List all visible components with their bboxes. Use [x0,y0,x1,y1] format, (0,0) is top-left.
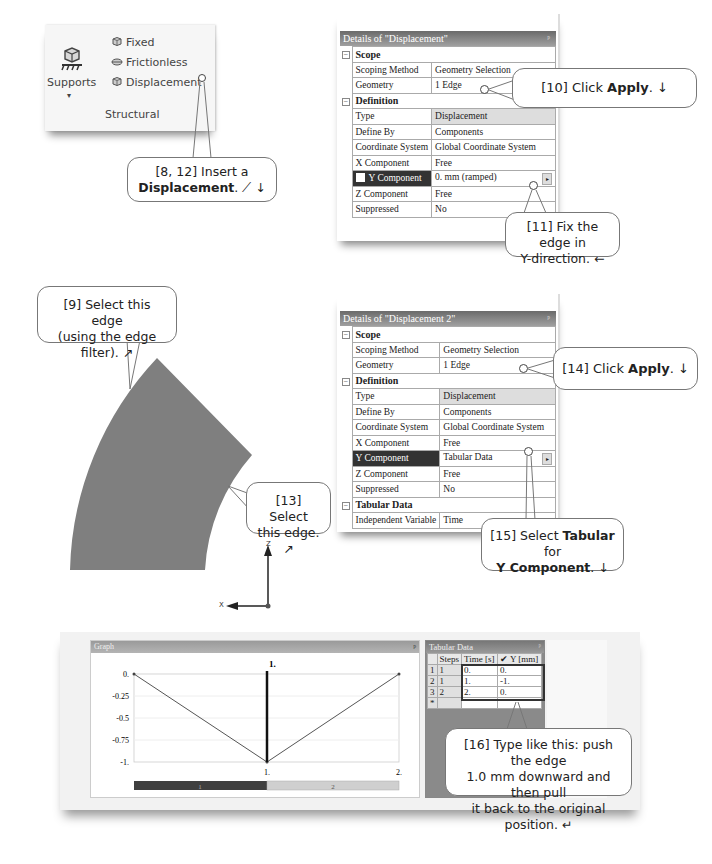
callout-text: [11] Fix the edge in [514,219,611,251]
callout-text: this edge. ↗ [255,525,322,557]
callout-bold: Displacement [138,180,234,195]
callout-text: [14] Click [562,361,628,376]
callout-type-tabular: [16] Type like this: push the edge 1.0 m… [445,728,632,796]
pointer-circle-icon [529,181,538,190]
callout-select-tabular: [15] Select Tabular for Y Component. ↓ [481,518,624,571]
callout-text: it back to the original position. ↵ [454,801,623,833]
callout-text: 1.0 mm downward and then pull [454,769,623,801]
callout-fix-edge-y: [11] Fix the edge in Y-direction. ← [505,212,620,257]
callout-select-edge-9: [9] Select this edge (using the edge fil… [37,286,177,343]
callout-text: Y-direction. ← [514,251,611,267]
callout-text: . ↓ [670,361,689,376]
callout-text: [15] Select [490,528,562,543]
callout-text: for [544,544,561,559]
pointer-circle-icon [480,85,489,94]
callout-bold: Apply [628,361,670,376]
callout-bold: Apply [607,80,649,95]
callout-click-apply-14: [14] Click Apply. ↓ [553,347,698,390]
callout-bold: Y Component [496,560,590,575]
callout-text: . ↓ [590,560,608,575]
callout-insert-displacement: [8, 12] Insert a Displacement. ⟋ ↓ [127,157,277,202]
pointer-circle-icon [524,447,533,456]
callout-text: [8, 12] Insert a [136,164,268,180]
callout-text: [9] Select this edge [46,297,168,329]
callout-text: [13] Select [255,493,322,525]
callout-text: [10] Click [541,80,607,95]
callout-bold: Tabular [563,528,615,543]
callout-text: . ↓ [649,80,668,95]
callout-text: (using the edge filter). ↗ [46,329,168,361]
callout-text: . ⟋ ↓ [234,180,265,195]
callout-text: [16] Type like this: push the edge [454,737,623,769]
callout-select-edge-13: [13] Select this edge. ↗ [246,482,331,534]
pointer-circle-icon [198,74,206,82]
callout-click-apply-10: [10] Click Apply. ↓ [512,68,697,108]
pointer-circle-icon [519,364,528,373]
